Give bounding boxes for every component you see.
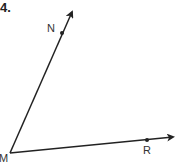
point-n: [60, 31, 64, 35]
point-r: [145, 138, 149, 142]
label-m: M: [0, 152, 8, 162]
label-r: R: [143, 144, 151, 156]
label-n: N: [47, 22, 55, 34]
angle-diagram: N R M: [0, 0, 177, 162]
